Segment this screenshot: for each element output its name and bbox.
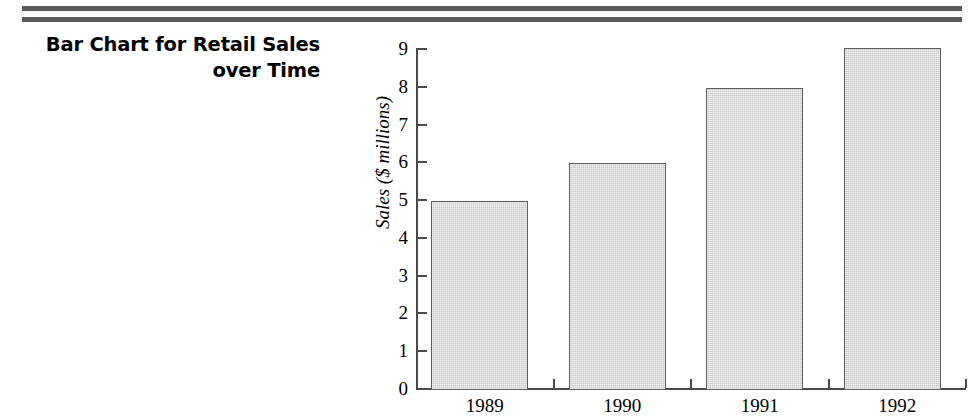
- y-axis-tick: [418, 86, 427, 88]
- y-axis-tick: [418, 388, 427, 390]
- y-axis-tick: [418, 350, 427, 352]
- x-axis-tick: [553, 379, 555, 388]
- y-axis-tick: [418, 161, 427, 163]
- y-axis-tick-label: 1: [384, 341, 408, 360]
- y-axis-tick-label: 9: [384, 39, 408, 58]
- x-axis-tick-label: 1991: [691, 396, 829, 416]
- x-axis-tick: [690, 379, 692, 388]
- bar: [706, 88, 803, 390]
- y-axis-tick: [418, 312, 427, 314]
- y-axis-tick-label: 3: [384, 266, 408, 285]
- x-axis-tick: [828, 379, 830, 388]
- y-axis-tick-label: 7: [384, 115, 408, 134]
- y-axis-tick-label: 0: [384, 379, 408, 398]
- bar-chart: Sales ($ millions) 9876543210 1989199019…: [0, 0, 979, 416]
- y-axis-tick-label: 2: [384, 303, 408, 322]
- y-axis-tick-label: 6: [384, 152, 408, 171]
- y-axis-tick-label: 5: [384, 190, 408, 209]
- y-axis-tick-label: 4: [384, 228, 408, 247]
- y-axis-tick: [418, 275, 427, 277]
- bar: [569, 163, 666, 390]
- y-axis-tick: [418, 48, 427, 50]
- y-axis-line: [416, 48, 418, 390]
- y-axis-tick: [418, 124, 427, 126]
- y-axis-tick-label: 8: [384, 77, 408, 96]
- y-axis-tick: [418, 237, 427, 239]
- y-axis-tick: [418, 199, 427, 201]
- bar: [431, 201, 528, 390]
- x-axis-tick-label: 1989: [416, 396, 554, 416]
- x-axis-tick: [965, 379, 967, 388]
- x-axis-tick-label: 1992: [829, 396, 967, 416]
- x-axis-tick-label: 1990: [554, 396, 692, 416]
- bar: [844, 48, 941, 390]
